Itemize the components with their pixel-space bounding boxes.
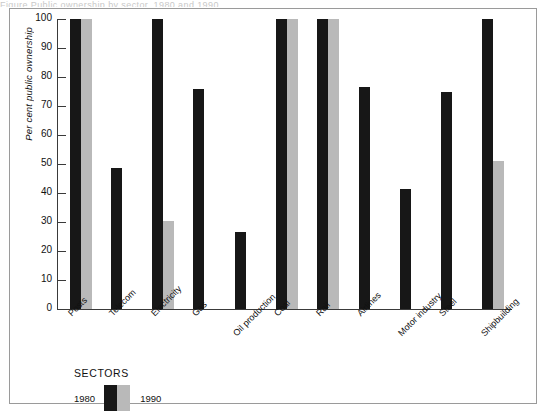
- legend-swatch-1980: [104, 385, 117, 411]
- plot-area: 0102030405060708090100: [57, 19, 527, 319]
- bar-1980: [317, 19, 328, 309]
- y-tick-label: 10: [28, 273, 52, 284]
- y-tick-label: 90: [28, 41, 52, 52]
- bar-group: [111, 19, 133, 309]
- bar-group: [235, 19, 257, 309]
- y-tick-label: 60: [28, 128, 52, 139]
- bar-1980: [441, 92, 452, 310]
- figure-frame: Per cent public ownership 01020304050607…: [9, 8, 537, 404]
- bar-1980: [359, 87, 370, 309]
- bar-1990: [493, 161, 504, 309]
- y-tick-label: 100: [28, 12, 52, 23]
- bar-1990: [287, 19, 298, 309]
- y-tick-label: 50: [28, 157, 52, 168]
- bar-1980: [70, 19, 81, 309]
- bar-group: [193, 19, 215, 309]
- bar-1980: [193, 89, 204, 309]
- bar-1980: [276, 19, 287, 309]
- legend-label-1980: 1980: [74, 393, 95, 404]
- y-tick-label: 0: [28, 302, 52, 313]
- bar-1980: [235, 232, 246, 309]
- bar-1980: [152, 19, 163, 309]
- bar-group: [400, 19, 422, 309]
- bar-1990: [328, 19, 339, 309]
- bar-1980: [482, 19, 493, 309]
- bar-group: [317, 19, 339, 309]
- bar-1990: [81, 19, 92, 309]
- bar-1980: [111, 168, 122, 309]
- bar-group: [441, 19, 463, 309]
- y-tick-label: 40: [28, 186, 52, 197]
- legend-swatch-1990: [117, 385, 130, 411]
- legend-label-1990: 1990: [140, 393, 161, 404]
- legend-row: 1980 1990: [74, 385, 161, 411]
- bars-layer: [58, 19, 512, 309]
- y-tick-label: 80: [28, 70, 52, 81]
- y-tick-mark: [58, 309, 66, 310]
- bar-group: [482, 19, 504, 309]
- bar-group: [276, 19, 298, 309]
- y-tick-label: 20: [28, 244, 52, 255]
- y-tick-label: 30: [28, 215, 52, 226]
- caption-remnant: Figure Public ownership by sector, 1980 …: [0, 0, 546, 7]
- legend-title: SECTORS: [74, 367, 161, 379]
- bar-group: [359, 19, 381, 309]
- bar-group: [70, 19, 92, 309]
- legend: SECTORS 1980 1990: [74, 367, 161, 411]
- y-tick-label: 70: [28, 99, 52, 110]
- bar-1980: [400, 189, 411, 309]
- bar-group: [152, 19, 174, 309]
